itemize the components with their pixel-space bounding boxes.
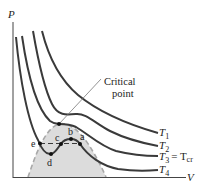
critical-point-leader (59, 79, 101, 124)
isotherm-t3-critical (22, 36, 158, 156)
y-axis-label: P (7, 8, 15, 20)
point-b-dot (69, 137, 73, 141)
point-a-label: a (80, 131, 85, 142)
pv-diagram: a b c d e Critical point P V T1 T2 T3= T… (0, 0, 208, 188)
critical-point-label-line1: Critical (104, 76, 136, 87)
point-b-label: b (68, 126, 73, 137)
critical-point-dot (57, 122, 61, 126)
critical-point-label-line2: point (112, 88, 134, 99)
x-axis-label: V (187, 171, 195, 183)
isotherm-t4-label: T4 (159, 163, 169, 178)
point-a-dot (78, 142, 82, 146)
point-d-dot (49, 152, 53, 156)
point-c-label: c (55, 132, 60, 143)
point-c-dot (59, 142, 63, 146)
point-e-label: e (31, 138, 36, 149)
point-e-dot (38, 142, 42, 146)
point-d-label: d (47, 157, 52, 168)
isotherm-t1 (42, 31, 158, 133)
coexistence-dome (28, 124, 106, 177)
